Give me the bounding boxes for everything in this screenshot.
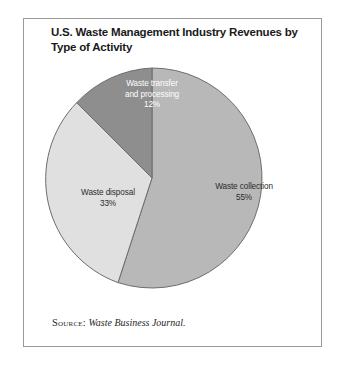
pie-chart: Waste collection 55% Waste disposal 33% …: [24, 19, 321, 346]
pie-label-waste-disposal-name: Waste disposal: [81, 188, 135, 197]
pie-label-waste-transfer-value: 12%: [106, 100, 198, 111]
pie-label-waste-transfer-line1: Waste transfer: [126, 79, 178, 88]
pie-label-waste-disposal: Waste disposal 33%: [60, 188, 156, 209]
figure-frame: U.S. Waste Management Industry Revenues …: [23, 18, 322, 347]
pie-label-waste-collection-value: 55%: [196, 193, 292, 204]
pie-label-waste-transfer-and-processing: Waste transfer and processing 12%: [106, 79, 198, 111]
source-note: Source: Waste Business Journal.: [52, 317, 186, 328]
source-publication: Waste Business Journal.: [88, 317, 185, 328]
pie-label-waste-transfer-line2: and processing: [106, 90, 198, 101]
pie-label-waste-collection-name: Waste collection: [215, 182, 273, 191]
source-label: Source:: [52, 317, 86, 328]
pie-label-waste-disposal-value: 33%: [60, 199, 156, 210]
pie-label-waste-collection: Waste collection 55%: [196, 182, 292, 203]
